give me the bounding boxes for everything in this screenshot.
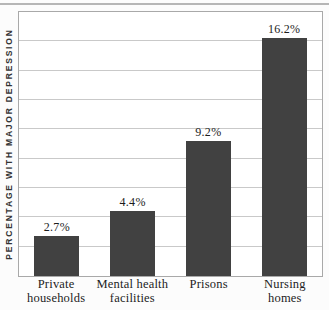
bar-slot: 9.2% <box>171 12 247 276</box>
y-axis-label-text: PERCENTAGE WITH MAJOR DEPRESSION <box>4 28 14 259</box>
category-label-line: Prisons <box>171 278 247 292</box>
top-rule-divider <box>0 3 329 5</box>
category-label: Mental healthfacilities <box>94 278 170 305</box>
category-label-line: facilities <box>94 292 170 306</box>
bars-row: 2.7%4.4%9.2%16.2% <box>19 12 322 276</box>
category-label-line: Nursing homes <box>247 278 323 305</box>
bar-value-label: 2.7% <box>44 221 70 233</box>
bar-slot: 16.2% <box>246 12 322 276</box>
bar <box>110 211 155 276</box>
category-label-line: households <box>18 292 94 306</box>
bar <box>186 141 231 276</box>
bar-value-label: 9.2% <box>195 126 221 138</box>
depression-bar-chart-figure: PERCENTAGE WITH MAJOR DEPRESSION 2.7%4.4… <box>0 0 329 310</box>
plot-area: 2.7%4.4%9.2%16.2% <box>18 11 323 277</box>
category-label-line: Private <box>18 278 94 292</box>
bar <box>262 38 307 276</box>
category-label: Nursing homes <box>247 278 323 305</box>
category-labels-row: PrivatehouseholdsMental healthfacilities… <box>18 278 323 305</box>
category-label-line: Mental health <box>94 278 170 292</box>
bar-value-label: 16.2% <box>268 23 301 35</box>
category-label: Privatehouseholds <box>18 278 94 305</box>
bar-value-label: 4.4% <box>120 196 146 208</box>
y-axis-label: PERCENTAGE WITH MAJOR DEPRESSION <box>0 11 17 276</box>
bar-slot: 2.7% <box>19 12 95 276</box>
bar <box>34 236 79 276</box>
category-label: Prisons <box>171 278 247 305</box>
bar-slot: 4.4% <box>95 12 171 276</box>
